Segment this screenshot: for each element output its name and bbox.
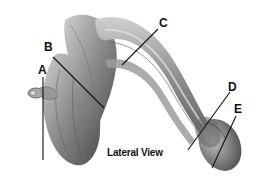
- label-e: E: [234, 103, 242, 115]
- label-a: A: [38, 64, 47, 76]
- anatomy-figure: A B C D E Lateral View: [0, 0, 258, 179]
- glans-structure: [190, 112, 249, 178]
- label-c: C: [159, 17, 168, 29]
- figure-caption: Lateral View: [107, 147, 163, 158]
- label-b: B: [44, 41, 53, 53]
- label-d: D: [228, 81, 237, 93]
